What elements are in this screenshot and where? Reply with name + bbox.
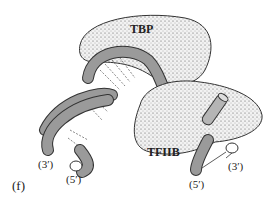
tfiib-label: TFIIB	[147, 145, 180, 160]
right-5-prime-label: (5′)	[189, 178, 204, 190]
left-5-prime-label: (5′)	[66, 173, 81, 185]
tfiib-protein	[134, 81, 262, 154]
tbp-label: TBP	[130, 22, 153, 37]
left-3-prime-label: (3′)	[38, 158, 53, 170]
panel-label: (f)	[12, 178, 25, 194]
right-3-prime-label: (3′)	[228, 160, 243, 172]
